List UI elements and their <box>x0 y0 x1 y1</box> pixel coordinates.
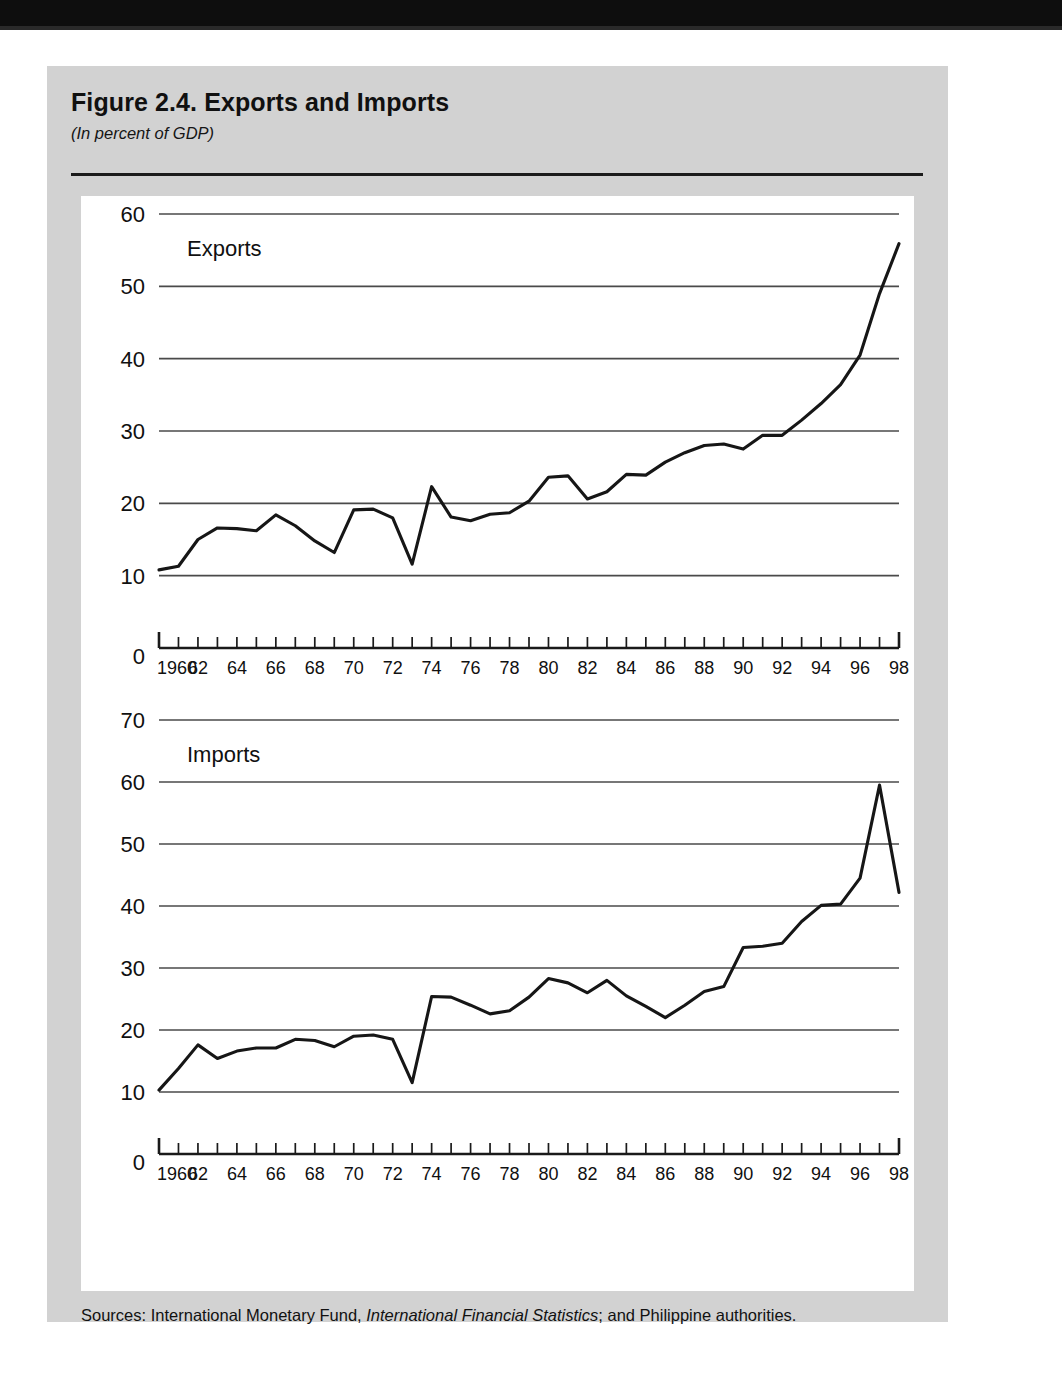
x-axis-label-84: 84 <box>616 1164 636 1184</box>
y-axis-label-50: 50 <box>121 274 145 299</box>
y-axis-label-40: 40 <box>121 894 145 919</box>
scan-artifact-band <box>0 0 1062 30</box>
exports-chart-svg: 0102030405060196062646668707274767880828… <box>81 196 914 696</box>
x-axis-label-70: 70 <box>344 1164 364 1184</box>
x-axis-label-90: 90 <box>733 658 753 678</box>
x-axis-label-92: 92 <box>772 1164 792 1184</box>
y-axis-label-60: 60 <box>121 202 145 227</box>
x-axis-label-80: 80 <box>538 658 558 678</box>
x-axis-label-88: 88 <box>694 658 714 678</box>
x-axis-label-84: 84 <box>616 658 636 678</box>
figure-subtitle: (In percent of GDP) <box>71 124 923 143</box>
x-axis-label-96: 96 <box>850 658 870 678</box>
x-axis-label-78: 78 <box>500 1164 520 1184</box>
series-line-exports <box>159 244 899 570</box>
y-axis-label-50: 50 <box>121 832 145 857</box>
y-axis-label-30: 30 <box>121 956 145 981</box>
y-axis-label-0: 0 <box>133 644 145 669</box>
imports-chart-svg: 0102030405060701960626466687072747678808… <box>81 702 914 1202</box>
source-note: Sources: International Monetary Fund, In… <box>81 1306 931 1325</box>
x-axis-label-82: 82 <box>577 658 597 678</box>
x-axis-label-62: 62 <box>188 1164 208 1184</box>
x-axis-label-64: 64 <box>227 1164 247 1184</box>
figure-header: Figure 2.4. Exports and Imports (In perc… <box>71 88 923 143</box>
x-axis-label-68: 68 <box>305 1164 325 1184</box>
source-prefix: Sources: International Monetary Fund, <box>81 1306 366 1324</box>
x-axis-label-72: 72 <box>383 658 403 678</box>
y-axis-label-10: 10 <box>121 564 145 589</box>
chart-exports: 0102030405060196062646668707274767880828… <box>81 196 914 696</box>
x-axis-label-86: 86 <box>655 658 675 678</box>
x-axis-label-92: 92 <box>772 658 792 678</box>
x-axis-label-62: 62 <box>188 658 208 678</box>
x-axis-label-96: 96 <box>850 1164 870 1184</box>
y-axis-label-0: 0 <box>133 1150 145 1175</box>
y-axis-label-70: 70 <box>121 708 145 733</box>
x-axis-label-82: 82 <box>577 1164 597 1184</box>
x-axis-label-68: 68 <box>305 658 325 678</box>
x-axis-label-94: 94 <box>811 1164 831 1184</box>
x-axis-label-76: 76 <box>461 1164 481 1184</box>
x-axis-label-74: 74 <box>422 1164 442 1184</box>
x-axis-label-80: 80 <box>538 1164 558 1184</box>
x-axis-label-70: 70 <box>344 658 364 678</box>
x-axis-label-72: 72 <box>383 1164 403 1184</box>
x-axis-label-66: 66 <box>266 658 286 678</box>
source-publication: International Financial Statistics <box>366 1306 598 1324</box>
series-label-exports: Exports <box>187 236 262 261</box>
y-axis-label-60: 60 <box>121 770 145 795</box>
figure-panel: Figure 2.4. Exports and Imports (In perc… <box>47 66 948 1322</box>
x-axis-label-86: 86 <box>655 1164 675 1184</box>
source-suffix: ; and Philippine authorities. <box>598 1306 796 1324</box>
header-divider <box>71 173 923 176</box>
x-axis-label-88: 88 <box>694 1164 714 1184</box>
x-axis-label-76: 76 <box>461 658 481 678</box>
y-axis-label-40: 40 <box>121 347 145 372</box>
series-label-imports: Imports <box>187 742 260 767</box>
y-axis-label-20: 20 <box>121 491 145 516</box>
figure-title: Figure 2.4. Exports and Imports <box>71 88 923 117</box>
x-axis-label-74: 74 <box>422 658 442 678</box>
x-axis-label-94: 94 <box>811 658 831 678</box>
y-axis-label-20: 20 <box>121 1018 145 1043</box>
series-line-imports <box>159 785 899 1090</box>
plot-card: 0102030405060196062646668707274767880828… <box>81 196 914 1291</box>
chart-imports: 0102030405060701960626466687072747678808… <box>81 702 914 1202</box>
x-axis-label-66: 66 <box>266 1164 286 1184</box>
x-axis-label-64: 64 <box>227 658 247 678</box>
x-axis-label-78: 78 <box>500 658 520 678</box>
x-axis-label-98: 98 <box>889 658 909 678</box>
y-axis-label-10: 10 <box>121 1080 145 1105</box>
y-axis-label-30: 30 <box>121 419 145 444</box>
x-axis-label-90: 90 <box>733 1164 753 1184</box>
x-axis-label-98: 98 <box>889 1164 909 1184</box>
